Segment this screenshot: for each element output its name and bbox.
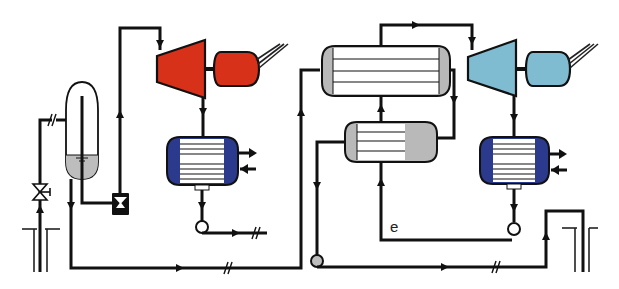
arrow-right-icon (249, 148, 257, 158)
steam-generator (214, 52, 259, 86)
arrow-down-icon (199, 108, 207, 116)
arrow-right-icon (232, 229, 240, 237)
arrow-left-icon (551, 165, 559, 175)
vaporizer (322, 46, 450, 96)
brine-circulation-pump[interactable] (311, 255, 323, 267)
arrow-up-icon (377, 104, 385, 112)
brine-outlet-pipe (317, 142, 345, 256)
arrow-down-icon (67, 202, 75, 210)
arrow-right-icon (559, 149, 567, 159)
arrow-up-icon (116, 110, 124, 118)
arrow-down-icon (198, 202, 206, 210)
steam-condenser (167, 137, 238, 190)
label-e: e (390, 218, 398, 235)
power-output-lines-icon (256, 44, 288, 68)
orc-condenser (480, 137, 549, 189)
brine-pump[interactable] (112, 193, 129, 215)
geothermal-plant-diagram: e (0, 0, 619, 289)
arrow-down-icon (450, 96, 458, 104)
injection-well (562, 228, 598, 272)
power-output-lines-icon (568, 44, 598, 68)
orc-generator (526, 52, 570, 86)
arrow-up-icon (297, 108, 305, 116)
separator-to-pump-pipe (82, 200, 112, 203)
arrow-down-icon (510, 114, 518, 122)
condensate-pump[interactable] (196, 221, 208, 233)
wellhead-valve[interactable] (33, 184, 50, 200)
orc-turbine (468, 40, 516, 96)
arrow-down-icon (510, 204, 518, 212)
steam-supply-pipe (120, 28, 160, 193)
arrow-up-icon (542, 232, 550, 240)
preheater (345, 122, 437, 162)
arrow-right-icon (412, 21, 420, 29)
arrow-right-icon (176, 264, 184, 272)
arrow-up-icon (377, 178, 385, 186)
arrow-down-icon (313, 182, 321, 190)
arrow-up-icon (36, 205, 44, 213)
arrow-left-icon (240, 164, 248, 174)
steam-turbine (157, 40, 205, 98)
arrow-down-icon (156, 40, 164, 48)
arrow-down-icon (468, 37, 476, 45)
orc-feed-pump[interactable] (508, 223, 520, 235)
arrow-right-icon (441, 263, 449, 271)
